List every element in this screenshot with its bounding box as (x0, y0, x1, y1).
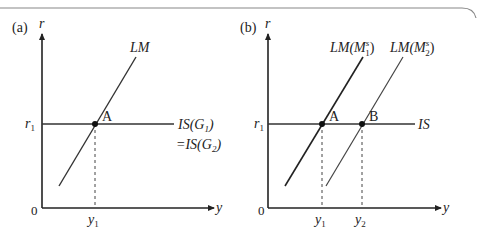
r1-label: r1 (254, 116, 264, 133)
panel-b-label: (b) (240, 20, 257, 36)
is-lm-diagram: (a) r y 0 r1 IS(G1) =IS(G2) LM A y1 (b) … (0, 0, 477, 233)
frame-border (0, 8, 476, 18)
r-axis-label: r (39, 16, 45, 31)
y1-label: y1 (86, 212, 99, 229)
lm1-curve (285, 57, 363, 186)
r1-label: r1 (25, 116, 35, 133)
is-label-2: =IS(G2) (176, 137, 221, 154)
point-b-label: B (369, 109, 378, 124)
lm-label: LM (129, 40, 151, 55)
panel-b: (b) r y 0 r1 IS LM(Ms1) LM(Ms2) A B y1 y… (240, 16, 450, 229)
point-a-label: A (329, 109, 340, 124)
panel-a: (a) r y 0 r1 IS(G1) =IS(G2) LM A y1 (12, 16, 223, 229)
y-axis-label: y (214, 200, 223, 215)
lm-curve (59, 57, 136, 186)
y2-label: y2 (353, 212, 366, 229)
is-label: IS (417, 117, 430, 132)
is-label: IS(G1) (177, 117, 214, 134)
origin-label: 0 (258, 203, 265, 218)
y1-label: y1 (313, 212, 326, 229)
point-a (92, 121, 98, 127)
panel-a-label: (a) (12, 20, 28, 36)
point-a (319, 121, 325, 127)
lm2-label: LM(Ms2) (389, 38, 435, 58)
point-a-label: A (102, 109, 113, 124)
y-axis-label: y (441, 200, 450, 215)
point-b (359, 121, 365, 127)
origin-label: 0 (31, 203, 38, 218)
lm1-label: LM(Ms1) (329, 38, 375, 58)
r-axis-label: r (265, 16, 271, 31)
